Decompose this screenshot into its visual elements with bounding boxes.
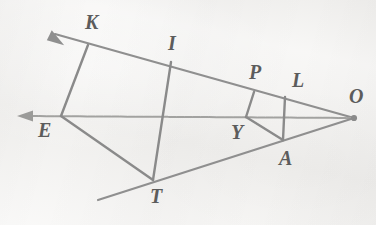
point-label-L: L [292, 70, 305, 90]
segment-LA [283, 97, 285, 140]
segment-PY [246, 92, 254, 117]
segment-KE [61, 45, 88, 116]
ray-upper-OK [55, 34, 354, 118]
point-label-T: T [150, 186, 163, 206]
ray-middle-OE [24, 116, 354, 118]
segment-ET [61, 116, 153, 180]
point-label-P: P [249, 62, 262, 82]
ray-middle-arrowhead [17, 111, 33, 122]
point-label-Y: Y [231, 122, 244, 142]
segment-YA [246, 117, 283, 140]
point-label-A: A [279, 148, 293, 168]
point-label-K: K [85, 12, 99, 32]
ray-lower-OT [98, 118, 354, 200]
point-label-O: O [349, 86, 364, 106]
rays-group [17, 30, 354, 200]
point-O-dot [351, 115, 357, 121]
segment-IT [153, 62, 171, 180]
geometry-canvas [0, 0, 376, 225]
point-label-I: I [168, 33, 176, 53]
point-label-E: E [38, 120, 52, 140]
geometry-figure: K I P L O E Y A T [0, 0, 376, 225]
